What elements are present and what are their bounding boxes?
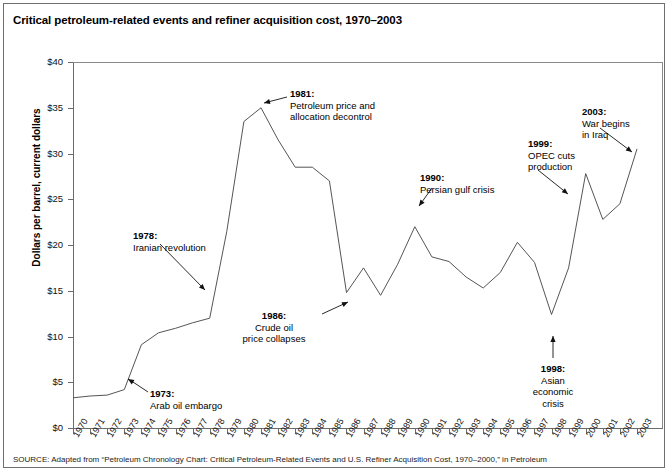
annotation-year-label: 2003: (582, 106, 630, 118)
annotation-1978: 1978:Iranian revolution (133, 230, 206, 253)
annotation-text-line: Persian gulf crisis (420, 184, 494, 196)
annotation-text-line: Petroleum price and (290, 100, 375, 112)
annotation-text-line: in Iraq (582, 129, 630, 141)
source-note: SOURCE: Adapted from “Petroleum Chronolo… (13, 455, 658, 465)
annotation-year-label: 1981: (290, 88, 375, 100)
annotation-year-label: 1978: (133, 230, 206, 242)
annotation-text-line: crisis (508, 398, 598, 410)
y-tick-label: $0 (0, 422, 63, 433)
annotation-text-line: allocation decontrol (290, 111, 375, 123)
annotation-year-label: 1999: (528, 138, 575, 150)
y-axis-label: Dollars per barrel, current dollars (31, 68, 42, 308)
annotation-year-label: 1998: (508, 363, 598, 375)
annotation-1998: 1998:Asianeconomiccrisis (508, 363, 598, 409)
annotation-1999: 1999:OPEC cutsproduction (528, 138, 575, 173)
y-tick-label: $5 (0, 376, 63, 387)
y-tick-mark (68, 382, 73, 383)
annotation-1981: 1981:Petroleum price andallocation decon… (290, 88, 375, 123)
annotation-year-label: 1973: (150, 388, 222, 400)
annotation-year-label: 1990: (420, 172, 494, 184)
y-tick-mark (68, 108, 73, 109)
annotation-year-label: 1986: (229, 310, 319, 322)
annotation-text-line: Crude oil (229, 322, 319, 334)
y-tick-mark (68, 337, 73, 338)
y-tick-mark (68, 245, 73, 246)
annotation-text-line: price collapses (229, 333, 319, 345)
annotation-text-line: production (528, 161, 575, 173)
annotation-text-line: OPEC cuts (528, 150, 575, 162)
y-tick-mark (68, 154, 73, 155)
y-tick-label: $40 (0, 56, 63, 67)
annotation-text-line: economic (508, 386, 598, 398)
annotation-1973: 1973:Arab oil embargo (150, 388, 222, 411)
y-tick-mark (68, 62, 73, 63)
figure-container: Critical petroleum-related events and re… (0, 0, 668, 471)
annotation-1990: 1990:Persian gulf crisis (420, 172, 494, 195)
page-title: Critical petroleum-related events and re… (13, 14, 402, 26)
y-tick-mark (68, 291, 73, 292)
annotation-2003: 2003:War beginsin Iraq (582, 106, 630, 141)
y-tick-mark (68, 199, 73, 200)
annotation-text-line: Arab oil embargo (150, 400, 222, 412)
annotation-1986: 1986:Crude oilprice collapses (229, 310, 319, 345)
annotation-text-line: Asian (508, 375, 598, 387)
annotation-text-line: Iranian revolution (133, 242, 206, 254)
y-tick-label: $10 (0, 331, 63, 342)
annotation-text-line: War begins (582, 118, 630, 130)
